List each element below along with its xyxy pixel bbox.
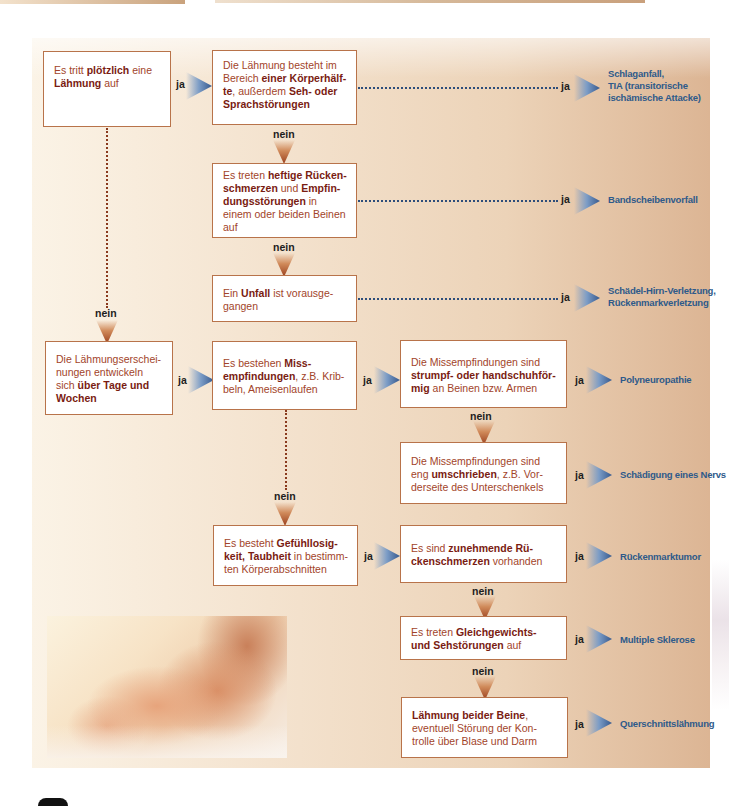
node-sudden-paralysis: Es tritt plötzlich eine Lähmung auf — [43, 51, 171, 127]
photo-shade — [47, 725, 287, 758]
result-spinal-tumor: Rückenmarktumor — [620, 551, 701, 563]
label-yes: ja — [561, 193, 570, 205]
result-polyneuropathy: Polyneuropathie — [620, 374, 691, 386]
result-stroke: Schlaganfall, TIA (transitorische ischäm… — [608, 68, 701, 104]
label-yes: ja — [575, 633, 584, 645]
result-paraplegia: Querschnittslähmung — [620, 718, 714, 730]
label-yes: ja — [363, 374, 372, 386]
node-numbness: Es besteht Gefühllosig-keit, Taubheit in… — [213, 525, 358, 586]
node-paresthesia: Es bestehen Miss-empfindungen, z.B. Krib… — [212, 341, 357, 410]
connector-f-to-i — [285, 410, 287, 490]
label-no-g: nein — [470, 410, 492, 422]
result-nerve-damage: Schädigung eines Nervs — [620, 469, 726, 481]
label-yes: ja — [178, 374, 187, 386]
label-yes: ja — [176, 78, 185, 90]
label-no-k: nein — [472, 665, 494, 677]
connector-b-result — [358, 87, 558, 89]
node-both-legs-paralysis: Lähmung beider Beine, eventuell Störung … — [401, 697, 568, 758]
label-yes: ja — [364, 550, 373, 562]
node-accident: Ein Unfall ist vorausge-gangen — [212, 275, 357, 322]
result-head-spine-injury: Schädel-Hirn-Verletzung, Rückenmarkverle… — [608, 285, 716, 309]
label-yes: ja — [561, 291, 570, 303]
page-icon — [38, 798, 68, 806]
result-multiple-sclerosis: Multiple Sklerose — [620, 634, 695, 646]
page-edge-decor — [712, 560, 729, 710]
label-yes: ja — [575, 550, 584, 562]
label-no-c: nein — [273, 241, 295, 253]
connector-a-to-e — [106, 128, 108, 308]
connector-d-result — [358, 298, 558, 300]
node-localized: Die Missempfindungen sind eng umschriebe… — [400, 442, 567, 504]
label-no-f: nein — [274, 490, 296, 502]
result-disc-herniation: Bandscheibenvorfall — [608, 194, 698, 206]
label-no-j: nein — [472, 585, 494, 597]
label-yes: ja — [575, 469, 584, 481]
node-balance-vision: Es treten Gleichgewichts- und Sehstörung… — [400, 616, 567, 660]
label-no-a: nein — [95, 307, 117, 319]
label-no-b: nein — [273, 128, 295, 140]
label-yes: ja — [575, 374, 584, 386]
node-develops-over-days: Die Lähmungserschei-nungen entwickeln si… — [45, 341, 173, 415]
node-one-body-half: Die Lähmung besteht im Bereich einer Kör… — [212, 50, 357, 125]
label-yes: ja — [561, 80, 570, 92]
connector-c-result — [358, 200, 558, 202]
top-decor-bar-right — [215, 0, 645, 3]
node-increasing-back-pain: Es sind zunehmende Rü-ckenschmerzen vorh… — [400, 525, 567, 583]
node-stocking-glove: Die Missempfindungen sind strumpf- oder … — [400, 340, 567, 408]
label-yes: ja — [575, 718, 584, 730]
node-back-pain: Es treten heftige Rücken-schmerzen und E… — [212, 163, 357, 238]
top-decor-bar-left — [0, 0, 185, 4]
